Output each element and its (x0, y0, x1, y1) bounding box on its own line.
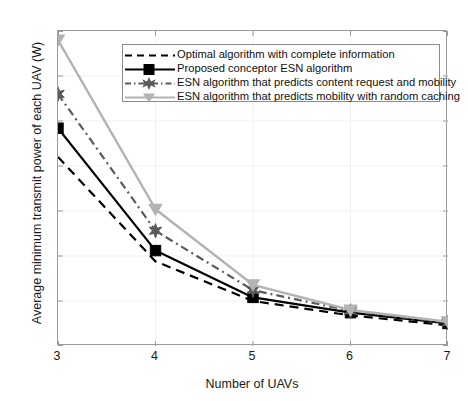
data-point (58, 123, 63, 133)
x-tick-label: 6 (330, 349, 370, 363)
legend-swatch-square (123, 62, 177, 75)
legend-swatch-star (123, 76, 177, 89)
x-tick-label: 7 (427, 349, 467, 363)
legend-item-label: ESN algorithm that predicts content requ… (177, 76, 456, 89)
legend-item-label: Proposed conceptor ESN algorithm (177, 62, 352, 75)
x-axis-title: Number of UAVs (57, 377, 447, 391)
legend-item: Optimal algorithm with complete informat… (123, 48, 439, 62)
legend-swatch-triangle (123, 90, 177, 103)
data-point (150, 245, 160, 255)
legend-swatch-dashed (123, 48, 177, 61)
legend-item: ESN algorithm that predicts mobility wit… (123, 90, 439, 104)
data-point (149, 224, 161, 238)
legend-item-label: ESN algorithm that predicts mobility wit… (177, 90, 460, 103)
x-tick-label: 5 (232, 349, 272, 363)
x-tick-label: 3 (37, 349, 77, 363)
chart-figure: Average minimum transmit power of each U… (0, 0, 468, 401)
legend-item-label: Optimal algorithm with complete informat… (177, 48, 395, 61)
y-axis-title: Average minimum transmit power of each U… (30, 18, 44, 348)
chart-legend: Optimal algorithm with complete informat… (122, 44, 440, 102)
legend-item: ESN algorithm that predicts content requ… (123, 76, 439, 90)
legend-item: Proposed conceptor ESN algorithm (123, 62, 439, 76)
x-tick-label: 4 (135, 349, 175, 363)
